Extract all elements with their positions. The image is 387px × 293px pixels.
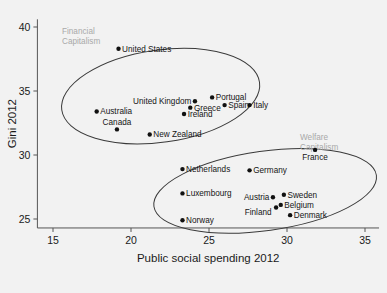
y-tick-label: 30	[19, 149, 31, 161]
x-tick-label: 15	[47, 234, 59, 246]
cluster-annotation-financial: FinancialCapitalism	[62, 27, 100, 46]
data-point[interactable]: Canada	[103, 118, 132, 131]
plot-canvas: 253035401520253035 FinancialCapitalismWe…	[0, 0, 387, 293]
data-point[interactable]: Germany	[247, 166, 287, 175]
data-point-marker	[288, 213, 292, 217]
data-point-label: Finland	[245, 208, 272, 217]
data-point[interactable]: Austria	[244, 193, 275, 202]
data-point[interactable]: Australia	[94, 107, 132, 116]
data-point-marker	[210, 95, 214, 99]
y-axis-title: Gini 2012	[6, 99, 18, 148]
data-points-group: United StatesUnited KingdomPortugalSpain…	[94, 45, 328, 226]
x-tick-label: 30	[281, 234, 293, 246]
data-point-label: Spain	[228, 101, 249, 110]
data-point-marker	[279, 203, 283, 207]
x-tick-label: 25	[203, 234, 215, 246]
data-point-marker	[116, 47, 120, 51]
data-point[interactable]: Italy	[247, 101, 269, 110]
data-point-label: Sweden	[287, 191, 317, 200]
data-point-label: Canada	[103, 118, 132, 127]
annotation-line-1: Financial	[62, 27, 95, 36]
y-tick-label: 40	[19, 21, 31, 33]
data-point-label: Italy	[253, 101, 269, 110]
data-point[interactable]: Spain	[222, 101, 249, 110]
data-point-marker	[180, 218, 184, 222]
data-point-marker	[222, 103, 226, 107]
y-tick-label: 35	[19, 85, 31, 97]
data-point[interactable]: New Zealand	[148, 130, 202, 139]
annotation-line-2: Capitalism	[300, 143, 338, 152]
x-tick-label: 35	[359, 234, 371, 246]
data-point[interactable]: Denmark	[288, 211, 328, 220]
data-point-marker	[313, 148, 317, 152]
data-point-marker	[274, 205, 278, 209]
data-point-label: Luxembourg	[186, 189, 232, 198]
data-point-label: United Kingdom	[133, 97, 191, 106]
data-point[interactable]: Luxembourg	[180, 189, 232, 198]
cluster-annotation-welfare: WelfareCapitalism	[300, 133, 338, 152]
data-point-label: New Zealand	[153, 130, 202, 139]
data-point-label: Germany	[253, 166, 288, 175]
x-tick-label: 20	[125, 234, 137, 246]
data-point[interactable]: United States	[116, 45, 171, 54]
x-axis-title: Public social spending 2012	[137, 252, 280, 264]
scatter-plot-figure: 253035401520253035 FinancialCapitalismWe…	[0, 0, 387, 293]
data-point-marker	[148, 132, 152, 136]
data-point-marker	[180, 167, 184, 171]
cluster-ellipses-group	[55, 37, 382, 246]
data-point-marker	[180, 191, 184, 195]
data-point[interactable]: Belgium	[279, 201, 315, 210]
data-point-label: Belgium	[284, 201, 314, 210]
y-tick-label: 25	[19, 213, 31, 225]
data-point-marker	[182, 112, 186, 116]
data-point[interactable]: Norway	[180, 216, 214, 225]
data-point-label: Ireland	[188, 110, 213, 119]
data-point-marker	[247, 168, 251, 172]
data-point-marker	[247, 103, 251, 107]
data-point-marker	[282, 192, 286, 196]
data-point[interactable]: Ireland	[182, 110, 213, 119]
data-point-label: Austria	[244, 193, 270, 202]
data-point-label: Australia	[100, 107, 132, 116]
data-point-label: France	[302, 153, 328, 162]
data-point[interactable]: Sweden	[282, 191, 318, 200]
data-point[interactable]: Finland	[245, 205, 279, 217]
data-point-label: Denmark	[294, 211, 328, 220]
data-point-marker	[94, 109, 98, 113]
data-point-marker	[115, 127, 119, 131]
data-point-label: Norway	[186, 216, 215, 225]
data-point[interactable]: United Kingdom	[133, 97, 197, 106]
annotation-line-2: Capitalism	[62, 37, 100, 46]
welfare-capitalism-ellipse	[148, 136, 381, 246]
data-point-label: United States	[122, 45, 171, 54]
data-point-marker	[271, 195, 275, 199]
annotation-line-1: Welfare	[300, 133, 329, 142]
data-point-label: Netherlands	[186, 165, 230, 174]
data-point[interactable]: Netherlands	[180, 165, 230, 174]
